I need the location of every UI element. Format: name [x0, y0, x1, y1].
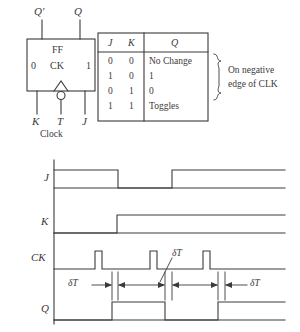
waveform-q [54, 302, 285, 320]
timing-label-j: J [44, 172, 49, 183]
waveform-ck [54, 251, 285, 269]
truth-table-cell-k-1: 0 [129, 72, 134, 82]
flipflop-right-pin-label: 1 [86, 61, 91, 71]
flipflop-output-q-label: Q [74, 6, 82, 17]
clock-triangle-icon [54, 81, 68, 91]
delta-t-label-left: δT [68, 279, 78, 289]
flipflop-clock-pin-label: CK [50, 61, 64, 71]
flipflop-input-t-label: T [57, 116, 63, 127]
waveform-k [54, 215, 285, 233]
truth-table-cell-j-0: 0 [108, 57, 113, 67]
waveform-j [54, 170, 285, 188]
truth-table-cell-q-0: No Change [149, 57, 192, 67]
timing-label-q: Q [41, 303, 49, 314]
delta-t-label-middle: δT [172, 249, 182, 259]
flipflop-input-k-label: K [32, 116, 39, 127]
flipflop-output-qbar-label: Q′ [34, 6, 44, 17]
truth-table-cell-j-2: 0 [108, 87, 113, 97]
truth-table-cell-k-3: 1 [129, 102, 134, 112]
figure-container: Q′ Q FF 0 CK 1 K T J Clock J K Q 0 0 No … [0, 0, 300, 332]
flipflop-input-j-label: J [82, 116, 87, 127]
truth-table-cell-q-2: 0 [149, 87, 154, 97]
truth-table-cell-k-0: 0 [129, 57, 134, 67]
inversion-bubble-icon [57, 92, 65, 100]
dt-callout-leader [160, 258, 172, 282]
flipflop-clock-caption: Clock [40, 130, 63, 140]
timing-label-k: K [41, 216, 48, 227]
flipflop-left-pin-label: 0 [31, 61, 36, 71]
truth-table-header-k: K [128, 38, 135, 48]
truth-table-cell-q-3: Toggles [149, 102, 179, 112]
brace-icon [214, 54, 221, 100]
delta-t-label-right: δT [250, 279, 260, 289]
truth-table-cell-j-1: 1 [108, 72, 113, 82]
truth-table-note-line1: On negative [228, 66, 274, 76]
truth-table-note-line2: edge of CLK [228, 80, 278, 90]
dt-arrowheads [105, 282, 232, 288]
truth-table-cell-j-3: 1 [108, 102, 113, 112]
truth-table-cell-k-2: 1 [129, 87, 134, 97]
truth-table-header-q: Q [171, 38, 178, 48]
flipflop-body-label: FF [52, 45, 63, 55]
truth-table-header-j: J [108, 38, 112, 48]
truth-table-cell-q-1: 1 [149, 72, 154, 82]
timing-label-ck: CK [31, 252, 46, 263]
